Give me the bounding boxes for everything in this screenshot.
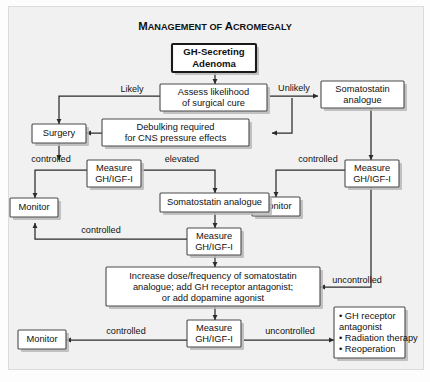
node-measure3-line-1: GH/IGF-I xyxy=(195,334,233,344)
node-salvage-options[interactable]: • GH receptor antagonist • Radiation the… xyxy=(334,307,418,361)
node-debulking[interactable]: Debulking required for CNS pressure effe… xyxy=(102,119,252,149)
node-salvage-line-0: • GH receptor xyxy=(339,311,395,321)
edge-label-controlled-bottom: controlled xyxy=(106,326,145,336)
node-assess-line-1: of surgical cure xyxy=(182,98,245,108)
node-escalate-line-2: or add dopamine agonist xyxy=(162,293,265,303)
node-assess-likelihood[interactable]: Assess likelihood of surgical cure xyxy=(160,84,270,114)
node-surgery-line-0: Surgery xyxy=(43,128,76,138)
title-part-2: A xyxy=(225,20,233,32)
node-monitor-left[interactable]: Monitor xyxy=(10,198,61,220)
edge-measure-r-monitor-r xyxy=(276,170,345,197)
edge-label-unlikely: Unlikely xyxy=(278,83,310,93)
node-somatostatin-analogue-top[interactable]: Somatostatin analogue xyxy=(321,81,407,111)
node-escalate-therapy[interactable]: Increase dose/frequency of somatostatin … xyxy=(106,267,323,309)
page-title: Management of AcromegalyMANAGEMENT OF AC… xyxy=(138,20,292,32)
node-surgery[interactable]: Surgery xyxy=(32,124,89,146)
node-assess-line-0: Assess likelihood xyxy=(178,87,249,97)
edge-measure1-monitor1 xyxy=(35,170,87,198)
node-ssa-top-line-0: Somatostatin xyxy=(335,84,389,94)
node-debulking-line-1: for CNS pressure effects xyxy=(125,133,227,143)
node-measure-gh-igf-right[interactable]: Measure GH/IGF-I xyxy=(345,160,402,190)
node-measure3-line-0: Measure xyxy=(196,323,232,333)
edge-label-controlled-mid: controlled xyxy=(81,225,120,235)
title-part-1: ANAGEMENT OF xyxy=(148,22,225,32)
node-monitor-bottom[interactable]: Monitor xyxy=(18,330,69,352)
node-somatostatin-analogue-mid[interactable]: Somatostatin analogue xyxy=(160,193,272,215)
node-measure-gh-igf-3[interactable]: Measure GH/IGF-I xyxy=(187,320,244,350)
node-monitor1-line-0: Monitor xyxy=(18,202,49,212)
node-measure2-line-1: GH/IGF-I xyxy=(195,242,233,252)
figure-page: Management of AcromegalyMANAGEMENT OF AC… xyxy=(0,0,430,382)
node-measure2-line-0: Measure xyxy=(196,231,232,241)
node-measure1-line-1: GH/IGF-I xyxy=(95,174,133,184)
node-monitor3-line-0: Monitor xyxy=(26,334,57,344)
edge-measure-r-escalate xyxy=(320,186,371,287)
node-adenoma-line-1: Adenoma xyxy=(192,58,236,69)
edge-measure1-ssa-mid xyxy=(141,170,215,193)
node-escalate-line-1: analogue; add GH receptor antagonist; xyxy=(133,282,293,292)
title-part-3: CROMEGALY xyxy=(233,22,292,32)
node-adenoma-line-0: GH-Secreting xyxy=(183,46,244,57)
node-measure-gh-igf-2[interactable]: Measure GH/IGF-I xyxy=(187,228,244,258)
node-salvage-line-3: • Reoperation xyxy=(339,344,396,354)
edge-ssa-top-debulking xyxy=(272,98,292,133)
node-ssa-top-line-1: analogue xyxy=(343,95,381,105)
edge-label-controlled-left: controlled xyxy=(31,154,70,164)
node-debulking-line-0: Debulking required xyxy=(136,122,214,132)
node-ssa-mid-line-0: Somatostatin analogue xyxy=(167,197,262,207)
acromegaly-flowchart: Management of AcromegalyMANAGEMENT OF AC… xyxy=(0,0,430,382)
node-salvage-line-1: antagonist xyxy=(339,322,382,332)
node-measure-gh-igf-1[interactable]: Measure GH/IGF-I xyxy=(87,160,144,190)
edge-label-uncontrolled-right: uncontrolled xyxy=(332,275,382,285)
node-measure1-line-0: Measure xyxy=(96,163,132,173)
node-adenoma[interactable]: GH-Secreting Adenoma xyxy=(172,44,259,75)
edge-label-elevated: elevated xyxy=(165,154,199,164)
node-escalate-line-0: Increase dose/frequency of somatostatin xyxy=(129,271,296,281)
node-measure-r-line-0: Measure xyxy=(354,163,390,173)
edge-label-likely: Likely xyxy=(120,84,144,94)
node-salvage-line-2: • Radiation therapy xyxy=(339,333,418,343)
edge-label-uncontrolled-bottom: uncontrolled xyxy=(265,326,315,336)
edge-label-controlled-right: controlled xyxy=(298,154,337,164)
node-measure-r-line-1: GH/IGF-I xyxy=(353,174,391,184)
title-part-0: M xyxy=(138,20,148,32)
